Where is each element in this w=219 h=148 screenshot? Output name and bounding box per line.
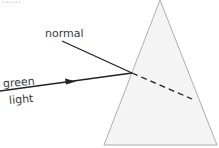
light-label: light [9,93,34,106]
ray-arrow-icon [65,79,76,85]
normal-line [62,41,132,73]
normal-label: normal [45,28,84,39]
green-label: green [3,76,36,90]
prism [104,0,217,145]
diagram-canvas: ...... normal green light [0,0,219,148]
